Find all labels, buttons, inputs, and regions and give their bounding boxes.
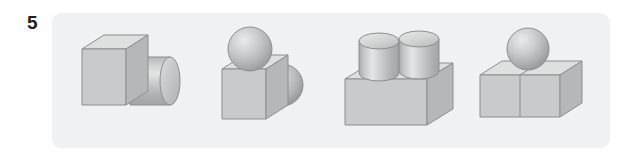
worksheet-item: 5 (0, 0, 628, 161)
figure-cube-with-two-spheres (210, 13, 340, 148)
sphere-top-solid (228, 27, 272, 71)
figure-cube-and-horizontal-cylinder (74, 13, 214, 148)
figure-double-cube-with-sphere (472, 13, 607, 148)
figure-box-with-two-cylinders (337, 13, 477, 148)
figure-panel: A cube with a horizontal cylinder attach… (52, 13, 610, 148)
cylinder-left-solid (359, 33, 399, 81)
sphere-solid (507, 28, 549, 70)
cube-solid (82, 35, 148, 105)
question-number: 5 (27, 13, 38, 32)
cylinder-right-solid (399, 31, 439, 79)
